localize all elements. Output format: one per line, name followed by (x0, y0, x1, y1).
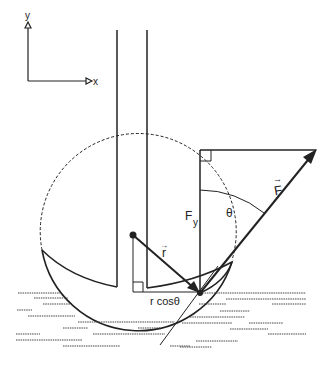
force-y-subscript: y (193, 217, 198, 228)
y-axis-label: y (25, 10, 30, 21)
rolling-circle-dashed (40, 133, 236, 260)
theta-label: θ (226, 206, 233, 220)
force-vector-mark: → (273, 174, 282, 184)
physics-diagram: y x (0, 0, 333, 366)
x-axis-label: x (93, 76, 98, 87)
radius-vector-mark: → (160, 241, 168, 250)
force-vector (200, 149, 317, 293)
rolling-body-bottom-arc (42, 250, 232, 331)
force-label: F (273, 182, 283, 198)
shaft (117, 30, 147, 288)
force-y-label: F (185, 209, 192, 223)
r-cos-theta-label: r cosθ (150, 295, 180, 307)
coordinate-axes (25, 22, 92, 84)
contact-point (197, 290, 203, 296)
